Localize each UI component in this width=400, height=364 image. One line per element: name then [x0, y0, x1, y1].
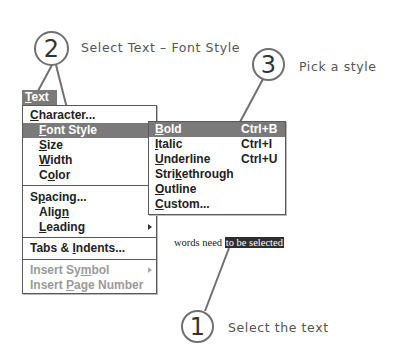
menu-divider — [23, 237, 156, 238]
submenu-item-strikethrough[interactable]: Strikethrough — [149, 167, 285, 182]
callout-circle-3: 3 — [252, 48, 285, 81]
menu-item-font-style[interactable]: Font Style — [23, 123, 156, 138]
callout-number: 3 — [261, 51, 276, 79]
menu-item-tabs-indents[interactable]: Tabs & Indents... — [23, 241, 156, 256]
menu-divider — [23, 259, 156, 260]
shortcut-label: Ctrl+I — [241, 137, 272, 152]
menu-item-insert-symbol: Insert Symbol — [23, 263, 156, 278]
shortcut-label: Ctrl+B — [241, 122, 277, 137]
menu-text[interactable]: Text — [22, 90, 57, 105]
menu-item-character[interactable]: Character... — [23, 108, 156, 123]
menu-item-color[interactable]: Color — [23, 168, 156, 183]
submenu-item-custom[interactable]: Custom... — [149, 197, 285, 212]
callout-circle-1: 1 — [181, 310, 214, 343]
shortcut-label: Ctrl+U — [241, 152, 277, 167]
submenu-item-bold[interactable]: BoldCtrl+B — [149, 122, 285, 137]
selected-text[interactable]: to be selected — [225, 237, 284, 248]
menu-item-width[interactable]: Width — [23, 153, 156, 168]
submenu-item-underline[interactable]: UnderlineCtrl+U — [149, 152, 285, 167]
menu-divider — [23, 185, 156, 186]
callout-label-1: Select the text — [228, 320, 329, 335]
callout-number: 2 — [44, 35, 59, 63]
submenu-arrow-icon — [148, 267, 152, 273]
submenu-item-outline[interactable]: Outline — [149, 182, 285, 197]
menu-item-spacing[interactable]: Spacing... — [23, 190, 156, 205]
menu-title-rest: ext — [31, 90, 48, 104]
callout-circle-2: 2 — [34, 31, 69, 66]
menu-item-insert-page-number: Insert Page Number — [23, 278, 156, 293]
submenu-item-italic[interactable]: ItalicCtrl+I — [149, 137, 285, 152]
document-text[interactable]: words need to be selected — [174, 237, 284, 249]
menu-item-leading[interactable]: Leading — [23, 220, 156, 235]
menu-item-align[interactable]: Align — [23, 205, 156, 220]
callout-label-2: Select Text – Font Style — [81, 40, 240, 55]
menu-item-size[interactable]: Size — [23, 138, 156, 153]
plain-text: words need — [174, 237, 225, 248]
font-style-submenu: BoldCtrl+B ItalicCtrl+I UnderlineCtrl+U … — [148, 121, 286, 215]
callout-number: 1 — [190, 313, 205, 341]
callout-label-3: Pick a style — [299, 59, 377, 74]
text-menu-dropdown: Character... Font Style Size Width Color… — [22, 105, 157, 294]
submenu-arrow-icon — [148, 224, 152, 230]
